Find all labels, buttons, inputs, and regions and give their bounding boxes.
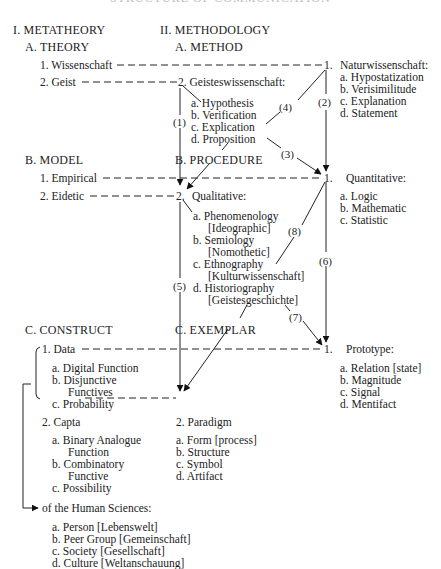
procedure-sub-ideographic: [Ideographic] — [208, 222, 271, 234]
exemplar-sub-relation: a. Relation [state] — [340, 362, 421, 374]
exemplar-sub-structure: b. Structure — [176, 446, 230, 458]
human-item-person: a. Person [Lebenswelt] — [52, 521, 158, 533]
model-heading: B. MODEL — [25, 154, 83, 166]
human-item-culture: d. Culture [Weltanschauung] — [52, 557, 184, 569]
procedure-sub-logic: a. Logic — [340, 190, 378, 202]
method-sub-explanation: c. Explanation — [340, 95, 406, 107]
construct-sub-digital-function: a. Digital Function — [52, 362, 139, 374]
methodology-heading: II. METHODOLOGY — [160, 24, 270, 36]
theory-item-geist: 2. Geist — [40, 76, 76, 88]
construct-sub-combinatory: b. Combinatory — [52, 458, 124, 470]
construct-sub-function: Function — [68, 446, 109, 458]
theory-heading: A. THEORY — [25, 41, 89, 53]
human-sciences-heading: of the Human Sciences: — [42, 502, 152, 514]
arrow-label-8: (8) — [288, 225, 301, 237]
procedure-item-2-number: 2. — [176, 190, 185, 202]
procedure-sub-ethnography: c. Ethnography — [193, 258, 263, 270]
method-sub-statement: d. Statement — [340, 107, 398, 119]
arrow-label-6: (6) — [319, 255, 332, 267]
construct-heading: C. CONSTRUCT — [25, 324, 113, 336]
construct-sub-possibility: c. Possibility — [52, 482, 111, 494]
exemplar-item-prototype: Prototype: — [346, 343, 394, 355]
arrow-label-2: (2) — [318, 96, 331, 108]
exemplar-item-paradigm: 2. Paradigm — [176, 416, 232, 428]
procedure-sub-phenomenology: a. Phenomenology — [193, 210, 279, 222]
procedure-sub-mathematic: b. Mathematic — [340, 202, 406, 214]
exemplar-heading: C. EXEMPLAR — [175, 324, 256, 336]
method-sub-verisimilitude: b. Verisimilitude — [340, 83, 416, 95]
exemplar-sub-mentifact: d. Mentifact — [340, 398, 396, 410]
construct-sub-disjunctive: b. Disjunctive — [52, 374, 117, 386]
procedure-sub-semiology: b. Semiology — [193, 234, 254, 246]
construct-sub-probability: c. Probability — [52, 398, 114, 410]
arrow-label-5: (5) — [173, 280, 186, 292]
method-heading: A. METHOD — [175, 41, 243, 53]
exemplar-sub-form: a. Form [process] — [176, 434, 257, 446]
metatheory-heading: I. METATHEORY — [13, 24, 105, 36]
construct-sub-functive: Functive — [68, 470, 108, 482]
theory-item-wissenschaft: 1. Wissenschaft — [40, 59, 112, 71]
arrow-label-4: (4) — [279, 101, 292, 113]
construct-item-data: 1. Data — [42, 343, 75, 355]
method-sub-hypothesis: a. Hypothesis — [191, 97, 254, 109]
procedure-heading: B. PROCEDURE — [175, 154, 263, 166]
human-item-society: c. Society [Gesellschaft] — [52, 545, 165, 557]
procedure-item-1-number: 1. — [324, 172, 333, 184]
procedure-sub-nomothetic: [Nomothetic] — [208, 246, 270, 258]
exemplar-sub-magnitude: b. Magnitude — [340, 374, 401, 386]
procedure-item-quantitative: Quantitative: — [346, 172, 406, 184]
procedure-sub-geistesgeschichte: [Geistesgeschichte] — [208, 294, 298, 306]
method-sub-hypostatization: a. Hypostatization — [340, 71, 424, 83]
arrow-label-3: (3) — [281, 148, 294, 160]
arrow-label-7: (7) — [289, 311, 302, 323]
exemplar-sub-artifact: d. Artifact — [176, 470, 223, 482]
arrow-label-1: (1) — [173, 116, 186, 128]
human-item-peer-group: b. Peer Group [Gemeinschaft] — [52, 533, 191, 545]
method-sub-proposition: d. Proposition — [191, 133, 256, 145]
method-item-geisteswissenschaft: 2. Geisteswissenschaft: — [178, 76, 285, 88]
procedure-sub-kulturwissenschaft: [Kulturwissenschaft] — [208, 270, 304, 282]
model-item-eidetic: 2. Eidetic — [40, 190, 84, 202]
exemplar-item-1-number: 1. — [324, 343, 333, 355]
method-sub-explication: c. Explication — [191, 121, 255, 133]
procedure-sub-historiography: d. Historiography — [193, 282, 274, 294]
procedure-sub-statistic: c. Statistic — [340, 214, 388, 226]
exemplar-sub-symbol: c. Symbol — [176, 458, 223, 470]
construct-sub-binary-analogue: a. Binary Analogue — [52, 434, 141, 446]
procedure-item-qualitative: Qualitative: — [192, 190, 246, 202]
exemplar-sub-signal: c. Signal — [340, 386, 380, 398]
construct-item-capta: 2. Capta — [42, 416, 80, 428]
model-item-empirical: 1. Empirical — [40, 172, 97, 184]
construct-sub-functives: Functives — [68, 386, 113, 398]
method-sub-verification: b. Verification — [191, 109, 257, 121]
method-item-naturwissenschaft: Naturwissenschaft: — [340, 59, 428, 71]
method-item-1-number: 1. — [324, 59, 333, 71]
